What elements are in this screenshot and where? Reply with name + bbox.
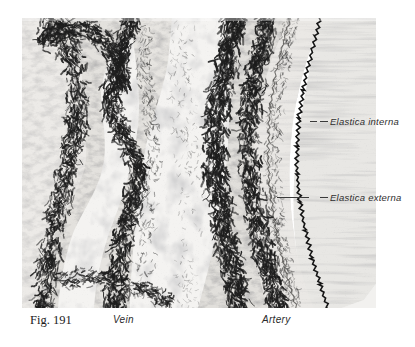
micrograph-image <box>22 18 376 308</box>
micrograph-plate <box>22 18 376 308</box>
label-elastica-externa: Elastica externa <box>330 192 402 203</box>
figure-number: Fig. 191 <box>30 313 72 328</box>
leader-line-elastica-interna <box>320 121 328 122</box>
film-grain <box>22 18 376 308</box>
figure-container: Elastica interna Elastica externa Fig. 1… <box>0 0 415 347</box>
leader-line-elastica-interna-tick <box>310 121 317 122</box>
plate-edge-fade-top <box>22 18 376 21</box>
caption-label-vein: Vein <box>113 314 134 325</box>
caption-label-artery: Artery <box>262 314 290 325</box>
leader-line-elastica-externa-tick <box>277 197 309 198</box>
label-elastica-interna: Elastica interna <box>330 116 399 127</box>
leader-line-elastica-externa <box>320 197 328 198</box>
